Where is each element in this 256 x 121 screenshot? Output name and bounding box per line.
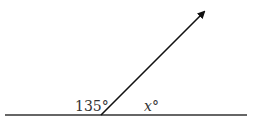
degree-symbol: ° bbox=[152, 98, 159, 114]
left-angle-label: 135° bbox=[75, 98, 109, 114]
variable-x: x bbox=[144, 98, 152, 114]
right-angle-label: x° bbox=[144, 98, 159, 114]
angle-diagram: 135° x° bbox=[0, 0, 256, 121]
